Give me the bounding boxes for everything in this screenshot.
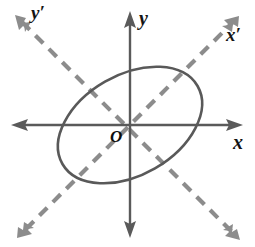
origin-label: O bbox=[110, 128, 122, 145]
primary-axes-group bbox=[11, 11, 243, 238]
rotated-axes-group bbox=[15, 15, 240, 240]
figure-canvas bbox=[0, 0, 255, 247]
y-axis-label: y bbox=[139, 8, 148, 28]
x-axis-label: x bbox=[233, 132, 243, 152]
y-prime-axis-label: y′ bbox=[31, 3, 45, 22]
conic-rotation-figure: x y x′ y′ O bbox=[0, 0, 255, 247]
x-prime-axis-label: x′ bbox=[226, 25, 241, 44]
